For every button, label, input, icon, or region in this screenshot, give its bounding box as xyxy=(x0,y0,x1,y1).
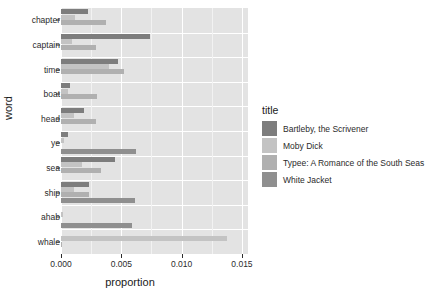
legend-label: Moby Dick xyxy=(283,141,323,151)
bar xyxy=(61,20,106,25)
legend-swatch-icon xyxy=(262,138,277,153)
y-tick-mark xyxy=(56,217,60,218)
bar xyxy=(61,34,150,39)
bar xyxy=(61,59,118,64)
y-tick-mark xyxy=(56,241,60,242)
y-tick-label-sea: sea xyxy=(8,163,60,173)
y-tick-label-chapter: chapter xyxy=(8,15,60,25)
bar xyxy=(61,242,62,247)
bar xyxy=(61,119,96,124)
bar xyxy=(61,69,124,74)
bar xyxy=(61,192,89,197)
legend-entries: Bartleby, the ScrivenerMoby DickTypee: A… xyxy=(262,121,424,187)
y-tick-mark xyxy=(56,143,60,144)
y-tick-label-time: time xyxy=(8,65,60,75)
y-tick-label-ahab: ahab xyxy=(8,212,60,222)
y-tick-label-head: head xyxy=(8,114,60,124)
y-tick-label-boat: boat xyxy=(8,89,60,99)
bar xyxy=(61,83,70,88)
legend-swatch-icon xyxy=(262,121,277,136)
bar xyxy=(61,187,74,192)
legend-item: White Jacket xyxy=(262,172,424,187)
legend-label: White Jacket xyxy=(283,175,332,185)
x-tick-label: 0.010 xyxy=(171,259,192,269)
bar-group xyxy=(61,108,248,130)
bar xyxy=(61,162,82,167)
y-tick-label-whale: whale xyxy=(8,237,60,247)
y-tick-mark xyxy=(56,94,60,95)
bar-group xyxy=(61,83,248,105)
x-tick-mark xyxy=(121,254,122,258)
legend: title Bartleby, the ScrivenerMoby DickTy… xyxy=(262,104,424,189)
y-axis-ticklabels: chaptercaptaintimeboatheadyeseashipahabw… xyxy=(0,0,60,298)
y-tick-mark xyxy=(56,20,60,21)
bar-group xyxy=(61,231,248,253)
bar xyxy=(61,138,64,143)
legend-title: title xyxy=(262,104,424,116)
legend-swatch-icon xyxy=(262,172,277,187)
bar-group xyxy=(61,34,248,56)
bar xyxy=(61,149,136,154)
bar xyxy=(61,198,135,203)
legend-label: Typee: A Romance of the South Seas xyxy=(283,158,424,168)
x-tick-mark xyxy=(182,254,183,258)
bar-group xyxy=(61,132,248,154)
plot-panel xyxy=(61,8,248,254)
y-tick-label-captain: captain xyxy=(8,40,60,50)
chart-root: word proportion chaptercaptaintimeboathe… xyxy=(0,0,425,298)
bar-group xyxy=(61,9,248,31)
bar-group xyxy=(61,206,248,228)
y-tick-mark xyxy=(56,118,60,119)
y-tick-label-ye: ye xyxy=(8,138,60,148)
bar xyxy=(61,212,63,217)
bar xyxy=(61,89,68,94)
y-tick-label-ship: ship xyxy=(8,188,60,198)
bar xyxy=(61,94,97,99)
bar xyxy=(61,236,227,241)
x-tick-label: 0.015 xyxy=(231,259,252,269)
x-tick-mark xyxy=(61,254,62,258)
bar xyxy=(61,108,84,113)
y-tick-mark xyxy=(56,192,60,193)
bar-group xyxy=(61,59,248,81)
bar xyxy=(61,182,89,187)
bar xyxy=(61,157,115,162)
legend-swatch-icon xyxy=(262,155,277,170)
y-tick-mark xyxy=(56,167,60,168)
bar xyxy=(61,64,109,69)
bar xyxy=(61,113,74,118)
legend-item: Moby Dick xyxy=(262,138,424,153)
x-tick-label: 0.000 xyxy=(50,259,71,269)
bar xyxy=(61,168,101,173)
bar xyxy=(61,9,88,14)
y-tick-mark xyxy=(56,69,60,70)
x-tick-mark xyxy=(242,254,243,258)
bar xyxy=(61,45,96,50)
bar xyxy=(61,132,68,137)
bar xyxy=(61,223,132,228)
x-tick-label: 0.005 xyxy=(111,259,132,269)
bar xyxy=(61,39,72,44)
legend-label: Bartleby, the Scrivener xyxy=(283,124,368,134)
legend-item: Bartleby, the Scrivener xyxy=(262,121,424,136)
bar-group xyxy=(61,157,248,179)
bar xyxy=(61,15,75,20)
legend-item: Typee: A Romance of the South Seas xyxy=(262,155,424,170)
y-tick-mark xyxy=(56,44,60,45)
bar-group xyxy=(61,182,248,204)
